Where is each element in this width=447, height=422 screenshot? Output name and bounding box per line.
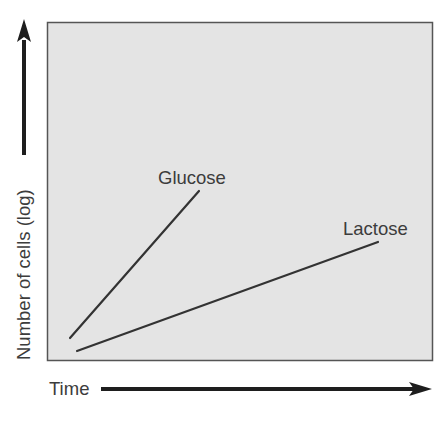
plot-area [48, 23, 433, 361]
chart: Glucose Lactose Number of cells (log) Ti… [0, 0, 447, 422]
y-axis-arrow-head-icon [17, 19, 31, 42]
glucose-label: Glucose [158, 167, 226, 188]
lactose-label: Lactose [343, 218, 408, 239]
x-axis-label: Time [49, 378, 89, 399]
y-axis-label: Number of cells (log) [13, 189, 34, 360]
